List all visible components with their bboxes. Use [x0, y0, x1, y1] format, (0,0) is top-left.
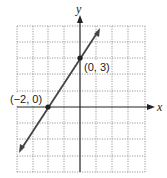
y-axis-label: y: [75, 2, 82, 16]
point-label-neg2-0: (−2, 0): [10, 93, 42, 105]
y-axis: [77, 15, 83, 172]
point-0-3: [77, 55, 82, 60]
coordinate-graph: x y (0, 3) (−2, 0): [0, 0, 167, 178]
y-axis-arrow-icon: [77, 15, 83, 23]
point-label-0-3: (0, 3): [84, 61, 110, 73]
x-axis-arrow-icon: [147, 104, 155, 110]
x-axis-label: x: [156, 100, 163, 114]
point-neg2-0: [45, 104, 50, 109]
